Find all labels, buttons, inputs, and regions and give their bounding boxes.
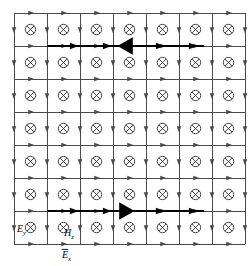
figure-canvas: EyHzEx: [0, 0, 252, 266]
yee-grid-diagram: EyHzEx: [0, 0, 252, 266]
